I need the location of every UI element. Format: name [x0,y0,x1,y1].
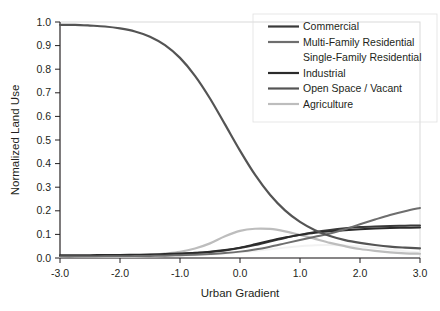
y-tick-label: 0.1 [36,228,51,240]
y-axis-ticks [55,22,60,258]
legend-label: Commercial [303,20,359,32]
x-tick-label: 3.0 [413,267,428,279]
y-tick-label: 0.3 [36,181,51,193]
x-axis: -3.0-2.0-1.00.01.02.03.0 Urban Gradient [51,258,427,299]
x-axis-ticks [60,258,420,263]
line-chart: 0.00.10.20.30.40.50.60.70.80.91.0 Normal… [0,0,440,311]
x-tick-label: 1.0 [293,267,308,279]
y-tick-label: 1.0 [36,16,51,28]
y-tick-label: 0.5 [36,134,51,146]
x-axis-title: Urban Gradient [201,287,280,299]
legend-label: Agriculture [303,98,353,110]
x-tick-label: -2.0 [111,267,129,279]
y-tick-label: 0.8 [36,63,51,75]
x-tick-label: 0.0 [233,267,248,279]
legend-item[interactable]: Single-Family Residential [303,51,421,63]
y-axis: 0.00.10.20.30.40.50.60.70.80.91.0 Normal… [9,16,60,264]
legend-label: Industrial [303,67,346,79]
y-axis-tick-labels: 0.00.10.20.30.40.50.60.70.80.91.0 [36,16,51,264]
y-axis-title: Normalized Land Use [9,85,21,196]
legend-label: Multi-Family Residential [303,36,414,48]
y-tick-label: 0.0 [36,252,51,264]
y-tick-label: 0.4 [36,157,51,169]
y-tick-label: 0.2 [36,204,51,216]
chart-figure: 0.00.10.20.30.40.50.60.70.80.91.0 Normal… [0,0,440,311]
legend-label: Single-Family Residential [303,51,421,63]
x-tick-label: -3.0 [51,267,69,279]
legend-label: Open Space / Vacant [303,82,402,94]
x-tick-label: -1.0 [171,267,189,279]
y-tick-label: 0.6 [36,110,51,122]
y-tick-label: 0.7 [36,86,51,98]
x-tick-label: 2.0 [353,267,368,279]
y-tick-label: 0.9 [36,39,51,51]
x-axis-tick-labels: -3.0-2.0-1.00.01.02.03.0 [51,267,427,279]
